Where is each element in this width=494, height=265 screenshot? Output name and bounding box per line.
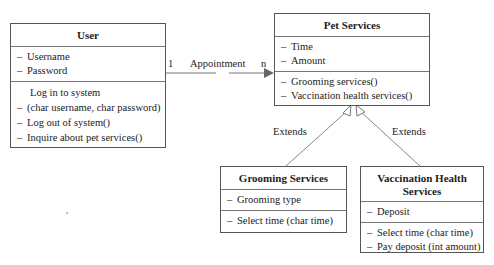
methods-section: –Select time (char time) –Pay deposit (i… [361, 222, 483, 257]
method: –Vaccination health services() [281, 89, 423, 103]
multiplicity-from: 1 [168, 58, 173, 69]
attribute: –Amount [281, 54, 423, 68]
class-pet-services: Pet Services –Time –Amount –Grooming ser… [274, 13, 430, 106]
association-arrowhead-icon [264, 68, 274, 78]
attribute: –Time [281, 40, 423, 54]
association-label: Appointment [190, 58, 245, 69]
method: Log in to system [17, 85, 159, 100]
stray-dot [66, 212, 68, 214]
method: –Select time (char time) [367, 226, 477, 240]
extends-label-left: Extends [273, 126, 307, 137]
class-name: Vaccination Health Services [361, 167, 483, 202]
extends-label-right: Extends [392, 126, 426, 137]
class-vaccination-health-services: Vaccination Health Services –Deposit –Se… [360, 166, 484, 253]
attributes-section: –Grooming type [221, 190, 346, 210]
method: –Select time (char time) [227, 214, 340, 228]
attribute: –Grooming type [227, 193, 340, 207]
attributes-section: –Deposit [361, 202, 483, 222]
class-name: User [11, 24, 165, 47]
method: –Log out of system() [17, 115, 159, 130]
method: –Inquire about pet services() [17, 130, 159, 145]
methods-section: –Grooming services() –Vaccination health… [275, 71, 429, 106]
attribute: –Deposit [367, 205, 477, 219]
methods-section: Log in to system –(char username, char p… [11, 81, 165, 148]
methods-section: –Select time (char time) [221, 210, 346, 231]
multiplicity-to: n [261, 58, 266, 69]
attributes-section: –Username –Password [11, 47, 165, 81]
class-user: User –Username –Password Log in to syste… [10, 23, 166, 148]
inheritance-arrowhead-icon [343, 105, 351, 116]
class-name: Pet Services [275, 14, 429, 37]
class-grooming-services: Grooming Services –Grooming type –Select… [220, 166, 347, 233]
attributes-section: –Time –Amount [275, 37, 429, 71]
attribute: –Username [17, 50, 159, 64]
method: –Grooming services() [281, 75, 423, 89]
method: –Pay deposit (int amount) [367, 240, 477, 254]
attribute: –Password [17, 64, 159, 78]
class-name: Grooming Services [221, 167, 346, 190]
method: –(char username, char password) [17, 100, 159, 115]
